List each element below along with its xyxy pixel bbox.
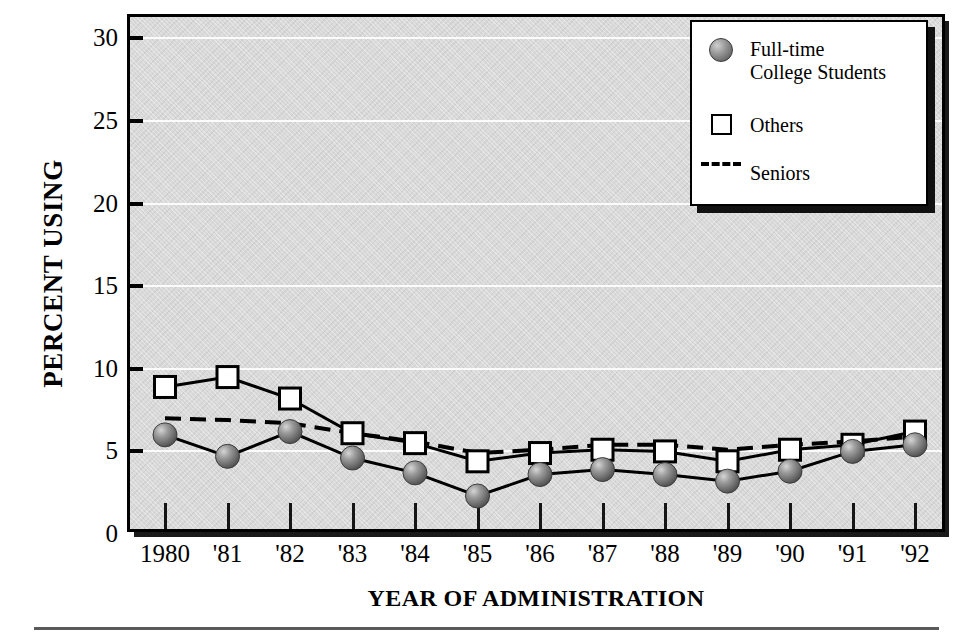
- y-axis-tick-label: 5: [58, 438, 118, 463]
- filled-circle-marker: [528, 463, 552, 487]
- open-square-marker: [780, 439, 801, 460]
- filled-circle-marker: [216, 444, 240, 468]
- open-square-marker: [217, 367, 238, 388]
- dashed-line-marker-icon: [692, 162, 750, 166]
- open-square-marker: [530, 443, 551, 464]
- x-axis-title: YEAR OF ADMINISTRATION: [127, 585, 945, 612]
- y-axis-tick-label: 10: [58, 356, 118, 381]
- legend-label: Seniors: [750, 162, 810, 185]
- filled-circle-marker: [716, 469, 740, 493]
- legend-label: Others: [750, 114, 803, 137]
- y-axis-tick-label: 15: [58, 273, 118, 298]
- filled-circle-marker: [653, 463, 677, 487]
- legend-item-full-time-college-students[interactable]: Full-time College Students: [692, 38, 886, 84]
- legend-label: Full-time College Students: [750, 38, 886, 84]
- bottom-divider-rule: [34, 627, 939, 630]
- open-square-marker-icon: [692, 114, 750, 135]
- y-axis-tick-label: 20: [58, 191, 118, 216]
- filled-circle-marker: [153, 423, 177, 447]
- x-axis-tick-label: '92: [870, 540, 960, 568]
- y-axis-tick-label: 30: [58, 25, 118, 50]
- chart-figure: PERCENT USING 051015202530 1980'81'82'83…: [0, 0, 973, 641]
- filled-circle-marker: [341, 446, 365, 470]
- open-square-marker: [155, 376, 176, 397]
- chart-legend: Full-time College Students Others Senior…: [690, 20, 928, 206]
- legend-item-seniors[interactable]: Seniors: [692, 162, 810, 185]
- open-square-marker: [655, 441, 676, 462]
- filled-circle-marker: [903, 433, 927, 457]
- filled-circle-marker: [466, 484, 490, 508]
- y-axis-tick-label: 25: [58, 108, 118, 133]
- open-square-marker: [342, 423, 363, 444]
- x-axis-tick-labels: 1980'81'82'83'84'85'86'87'88'89'90'91'92: [0, 540, 973, 574]
- filled-circle-marker: [403, 461, 427, 485]
- open-square-marker: [467, 451, 488, 472]
- filled-circle-marker: [278, 420, 302, 444]
- filled-circle-marker-icon: [692, 38, 750, 62]
- open-square-marker: [405, 433, 426, 454]
- legend-item-others[interactable]: Others: [692, 114, 803, 137]
- filled-circle-marker: [841, 439, 865, 463]
- filled-circle-marker: [778, 459, 802, 483]
- filled-circle-marker: [591, 458, 615, 482]
- open-square-marker: [280, 388, 301, 409]
